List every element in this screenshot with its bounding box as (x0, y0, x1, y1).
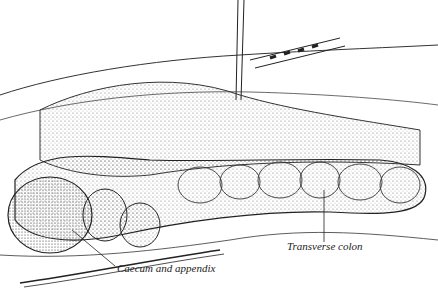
label-transverse-colon: Transverse colon (287, 240, 362, 252)
colon-drawing (0, 0, 438, 296)
anatomical-illustration: Caecum and appendix Transverse colon (0, 0, 438, 296)
label-caecum-and-appendix: Caecum and appendix (117, 262, 215, 274)
